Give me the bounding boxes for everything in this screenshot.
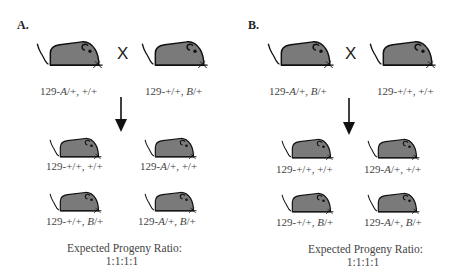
- ratio-title: Expected Progeny Ratio:: [308, 243, 418, 256]
- parent-genotype-a1: 129-A/+, +/+: [40, 85, 97, 97]
- arrow-down-icon: [114, 97, 128, 133]
- arrow-down-icon: [342, 98, 356, 136]
- mouse-icon: [366, 138, 420, 160]
- mouse-icon: [264, 40, 336, 68]
- mouse-icon: [138, 40, 210, 68]
- panel-a-label: A.: [17, 18, 29, 33]
- mouse-icon: [280, 138, 334, 160]
- ratio-title: Expected Progeny Ratio:: [67, 242, 177, 255]
- mouse-icon: [366, 40, 438, 68]
- cross-symbol: X: [117, 44, 128, 64]
- parent-genotype-a2: 129-+/+, B/+: [145, 85, 202, 97]
- mouse-icon: [33, 40, 105, 68]
- progeny-genotype: 129-+/+, +/+: [276, 163, 333, 175]
- mouse-icon: [143, 137, 197, 159]
- parent-genotype-b1: 129-A/+, B/+: [269, 85, 327, 97]
- cross-symbol: X: [345, 44, 356, 64]
- ratio-value: 1:1:1:1: [308, 256, 418, 269]
- progeny-genotype: 129-+/+, +/+: [46, 160, 103, 172]
- ratio-value: 1:1:1:1: [67, 255, 177, 268]
- mouse-icon: [366, 192, 420, 214]
- panel-b-label: B.: [248, 18, 259, 33]
- progeny-genotype: 129-A/+, B/+: [138, 215, 196, 227]
- progeny-genotype: 129-A/+, B/+: [364, 216, 422, 228]
- parent-genotype-b2: 129-+/+, +/+: [377, 85, 434, 97]
- progeny-genotype: 129-+/+, B/+: [46, 215, 103, 227]
- progeny-genotype: 129-A/+, +/+: [364, 163, 421, 175]
- progeny-genotype: 129-+/+, B/+: [276, 216, 333, 228]
- mouse-icon: [48, 137, 102, 159]
- progeny-genotype: 129-A/+, +/+: [140, 160, 197, 172]
- mouse-icon: [143, 191, 197, 213]
- mouse-icon: [280, 192, 334, 214]
- mouse-icon: [48, 191, 102, 213]
